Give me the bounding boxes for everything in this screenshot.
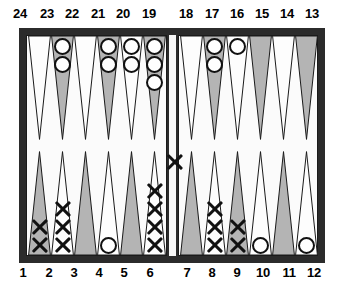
- point-label-11: 11: [277, 263, 301, 283]
- point-label-17: 17: [200, 4, 224, 24]
- point-label-5: 5: [112, 263, 136, 283]
- point-5[interactable]: [120, 151, 143, 255]
- checker-stack-point-9: [226, 218, 249, 254]
- checker-stack-point-1: [28, 218, 51, 254]
- point-label-15: 15: [250, 4, 274, 24]
- point-triangle: [75, 36, 97, 139]
- checker-stack-point-23: [51, 37, 74, 73]
- board-frame: [19, 28, 325, 263]
- black-checker[interactable]: [229, 237, 246, 254]
- checker-stack-point-6: [143, 182, 166, 254]
- point-label-8: 8: [200, 263, 224, 283]
- black-checker[interactable]: [54, 219, 71, 236]
- point-label-22: 22: [60, 4, 84, 24]
- black-checker[interactable]: [146, 219, 163, 236]
- point-23[interactable]: [51, 36, 74, 140]
- black-checker[interactable]: [206, 237, 223, 254]
- point-triangle: [121, 152, 143, 255]
- point-10[interactable]: [249, 151, 272, 255]
- point-17[interactable]: [203, 36, 226, 140]
- black-checker[interactable]: [31, 237, 48, 254]
- checker-stack-point-4: [97, 236, 120, 254]
- checker-stack-point-21: [97, 37, 120, 73]
- point-3[interactable]: [74, 151, 97, 255]
- point-11[interactable]: [272, 151, 295, 255]
- point-15[interactable]: [249, 36, 272, 140]
- point-2[interactable]: [51, 151, 74, 255]
- point-label-4: 4: [87, 263, 111, 283]
- checker-stack-point-16: [226, 37, 249, 55]
- point-7[interactable]: [180, 151, 203, 255]
- white-checker[interactable]: [146, 38, 163, 55]
- bottom-point-label-row: 123456789101112: [0, 263, 342, 283]
- point-label-13: 13: [300, 4, 324, 24]
- white-checker[interactable]: [252, 237, 269, 254]
- white-checker[interactable]: [146, 56, 163, 73]
- point-triangle: [250, 36, 272, 139]
- left-half-surface: [26, 35, 167, 256]
- point-label-6: 6: [138, 263, 162, 283]
- white-checker[interactable]: [54, 56, 71, 73]
- point-9[interactable]: [226, 151, 249, 255]
- point-label-7: 7: [175, 263, 199, 283]
- black-checker[interactable]: [229, 219, 246, 236]
- black-checker[interactable]: [206, 219, 223, 236]
- checker-stack-point-2: [51, 200, 74, 254]
- point-label-3: 3: [62, 263, 86, 283]
- white-checker[interactable]: [298, 237, 315, 254]
- white-checker[interactable]: [229, 38, 246, 55]
- point-24[interactable]: [28, 36, 51, 140]
- white-checker[interactable]: [100, 56, 117, 73]
- point-triangle: [75, 152, 97, 255]
- black-checker[interactable]: [54, 237, 71, 254]
- black-checker[interactable]: [54, 201, 71, 218]
- point-20[interactable]: [120, 36, 143, 140]
- point-label-24: 24: [8, 4, 32, 24]
- point-label-16: 16: [225, 4, 249, 24]
- checker-stack-point-19: [143, 37, 166, 91]
- point-label-9: 9: [225, 263, 249, 283]
- point-18[interactable]: [180, 36, 203, 140]
- point-21[interactable]: [97, 36, 120, 140]
- checker-stack-bar: [166, 153, 183, 171]
- black-checker[interactable]: [146, 237, 163, 254]
- point-12[interactable]: [295, 151, 318, 255]
- point-16[interactable]: [226, 36, 249, 140]
- point-13[interactable]: [295, 36, 318, 140]
- point-14[interactable]: [272, 36, 295, 140]
- point-8[interactable]: [203, 151, 226, 255]
- black-checker[interactable]: [206, 201, 223, 218]
- black-checker[interactable]: [146, 183, 163, 200]
- white-checker[interactable]: [146, 74, 163, 91]
- point-19[interactable]: [143, 36, 166, 140]
- point-label-20: 20: [111, 4, 135, 24]
- point-label-21: 21: [86, 4, 110, 24]
- white-checker[interactable]: [100, 237, 117, 254]
- white-checker[interactable]: [206, 38, 223, 55]
- white-checker[interactable]: [123, 38, 140, 55]
- black-checker[interactable]: [31, 219, 48, 236]
- white-checker[interactable]: [123, 56, 140, 73]
- black-checker[interactable]: [146, 201, 163, 218]
- white-checker[interactable]: [54, 38, 71, 55]
- point-triangle: [273, 36, 295, 139]
- white-checker[interactable]: [100, 38, 117, 55]
- white-checker[interactable]: [206, 56, 223, 73]
- point-label-10: 10: [251, 263, 275, 283]
- point-1[interactable]: [28, 151, 51, 255]
- point-label-18: 18: [174, 4, 198, 24]
- point-4[interactable]: [97, 151, 120, 255]
- top-point-label-row: 242322212019181716151413: [0, 4, 342, 24]
- right-half-surface: [178, 35, 318, 256]
- point-6[interactable]: [143, 151, 166, 255]
- black-checker[interactable]: [166, 154, 183, 171]
- point-triangle: [273, 152, 295, 255]
- point-label-23: 23: [35, 4, 59, 24]
- point-triangle: [181, 36, 203, 139]
- checker-stack-point-17: [203, 37, 226, 73]
- point-22[interactable]: [74, 36, 97, 140]
- checker-stack-point-12: [295, 236, 318, 254]
- point-triangle: [29, 36, 51, 139]
- bar[interactable]: [167, 35, 178, 256]
- backgammon-board: 242322212019181716151413 123456789101112: [0, 0, 342, 284]
